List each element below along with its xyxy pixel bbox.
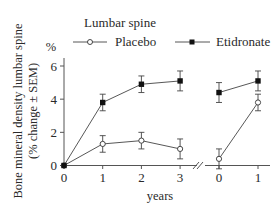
chart-title: Lumbar spine	[84, 15, 156, 30]
data-point-placebo	[216, 156, 221, 161]
data-point-placebo	[139, 138, 144, 143]
y-tick-label: 2	[51, 125, 58, 140]
data-point-etidronate	[216, 90, 221, 95]
legend-entry-placebo: Placebo	[73, 34, 156, 49]
legend-label-placebo: Placebo	[115, 34, 156, 49]
series-line-placebo	[64, 141, 180, 166]
legend-label-etidronate: Etidronate	[216, 34, 270, 49]
legend-marker-etidronate	[190, 40, 195, 45]
data-point-etidronate	[255, 78, 260, 83]
legend-marker-placebo	[88, 40, 93, 45]
data-point-etidronate	[100, 100, 105, 105]
y-axis-title-line1: Bone mineral density lumbar spine	[11, 23, 25, 198]
legend-entry-etidronate: Etidronate	[175, 34, 270, 49]
series-line-placebo	[219, 102, 258, 158]
y-axis-title-line2: (% change ± SEM)	[26, 63, 40, 159]
y-tick-label: 0	[51, 158, 58, 173]
x-tick-label: 1	[99, 170, 106, 185]
data-point-etidronate	[61, 163, 66, 168]
x-tick-label: 0	[61, 170, 68, 185]
data-point-placebo	[100, 141, 105, 146]
data-point-placebo	[178, 146, 183, 151]
x-tick-label: 3	[177, 170, 184, 185]
x-tick-label: 2	[138, 170, 145, 185]
y-unit-label: %	[46, 40, 56, 54]
y-tick-label: 6	[51, 59, 58, 74]
y-axis-title: Bone mineral density lumbar spine (% cha…	[11, 23, 40, 198]
series-line-etidronate	[64, 81, 180, 166]
legend: Placebo Etidronate	[73, 34, 270, 49]
data-point-placebo	[255, 100, 260, 105]
x-axis-title: years	[147, 189, 174, 203]
x-tick-label: 1	[255, 170, 262, 185]
y-tick-label: 4	[51, 92, 58, 107]
x-tick-label: 0	[216, 170, 223, 185]
plot-area	[61, 71, 261, 169]
data-point-etidronate	[177, 78, 182, 83]
bmd-chart: Lumbar spine Placebo Etidronate Bone min…	[0, 0, 280, 209]
axes: 0246012301	[51, 58, 271, 185]
series-line-etidronate	[219, 81, 258, 93]
data-point-etidronate	[139, 82, 144, 87]
